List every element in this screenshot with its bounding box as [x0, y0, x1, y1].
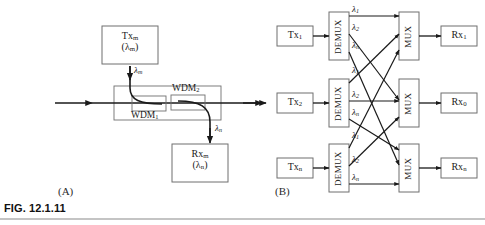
panel-b-demux-label-3: DEMUX — [334, 144, 343, 194]
panel-b-rx-label-1: Rx1 — [441, 30, 477, 41]
panel-b-wavelength-label-g1-1: λ1 — [352, 5, 359, 15]
panel-b-caption: (B) — [275, 186, 290, 198]
panel-b-wavelength-label-g2-2: λ2 — [352, 90, 359, 100]
panel-b-wavelength-label-g1-3: λn — [352, 41, 359, 51]
panel-b-wavelength-label-g2-3: λn — [352, 108, 359, 118]
panel-b-tx-label-2: Tx2 — [277, 97, 313, 108]
panel-b-wavelength-label-g3-3: λn — [352, 173, 359, 183]
panel-a-rx-box-label: Rxm (λn) — [172, 149, 228, 170]
panel-b-wavelength-label-g3-2: λ2 — [352, 155, 359, 165]
panel-b-tx-label-3: Txn — [277, 162, 313, 173]
panel-b-tx-label-1: Tx1 — [277, 30, 313, 41]
panel-b-wavelength-label-g2-1: λ1 — [352, 66, 359, 76]
panel-b-mux-label-3: MUX — [404, 144, 413, 194]
panel-b-rx-label-2: Rx0 — [441, 97, 477, 108]
panel-a-tx-box-label: Txm (λm) — [102, 31, 158, 52]
panel-a-wdm1-label: WDM1 — [131, 111, 159, 121]
figure-caption: FIG. 12.1.11 — [4, 202, 66, 214]
panel-b-rx-label-3: Rxn — [441, 162, 477, 173]
panel-a-caption: (A) — [58, 186, 73, 198]
panel-b-wavelength-label-g1-2: λ2 — [352, 23, 359, 33]
panel-b-mux-label-1: MUX — [404, 12, 413, 62]
figure-container: Txm (λm) Rxm (λn) λm λn WDM1 WDM2 (A) Tx… — [0, 0, 485, 225]
panel-b-demux-label-2: DEMUX — [334, 79, 343, 129]
panel-a-drop-wavelength-label: λn — [215, 124, 222, 134]
panel-a-wdm2-label: WDM2 — [172, 84, 200, 94]
panel-b-mux-label-2: MUX — [404, 79, 413, 129]
panel-b-wavelength-label-g3-1: λ1 — [352, 131, 359, 141]
panel-b-demux-label-1: DEMUX — [334, 12, 343, 62]
panel-a-add-wavelength-label: λm — [134, 66, 142, 76]
